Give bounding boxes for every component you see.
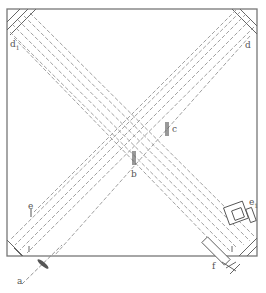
label-c: c bbox=[172, 125, 177, 134]
label-a: a bbox=[17, 277, 22, 286]
label-f: f bbox=[212, 262, 215, 271]
mirror-top-left bbox=[7, 9, 36, 35]
marker-c bbox=[166, 122, 168, 136]
source-a bbox=[22, 245, 62, 284]
label-b: b bbox=[131, 170, 137, 179]
marker-b bbox=[133, 151, 135, 165]
beam-bundle-tr-bl bbox=[10, 10, 254, 255]
mirror-top-right bbox=[232, 9, 257, 34]
beam-bundle-tl-br bbox=[10, 13, 255, 251]
optical-diagram bbox=[0, 0, 266, 293]
mirror-bottom-left bbox=[7, 240, 29, 256]
label-e1: e1 bbox=[249, 198, 258, 209]
label-d: d bbox=[245, 41, 251, 50]
label-d1: d1 bbox=[10, 40, 20, 51]
label-e: e bbox=[28, 202, 33, 211]
